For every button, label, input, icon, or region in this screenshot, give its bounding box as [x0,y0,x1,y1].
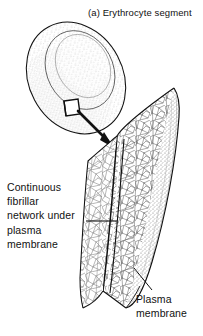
figure-illustration [0,0,203,336]
callout-box [64,99,80,116]
erythrocyte-figure: (a) Erythrocyte segment Continuous fibri… [0,0,203,336]
figure-title: (a) Erythrocyte segment [88,7,192,18]
fibrillar-network-label: Continuous fibrillar network under plasm… [7,180,75,251]
plasma-membrane-label: Plasma membrane [136,292,187,320]
